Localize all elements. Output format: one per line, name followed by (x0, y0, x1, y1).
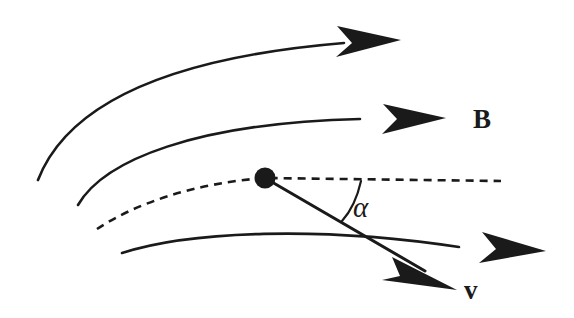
magnetic-field-label: B (473, 104, 491, 134)
physics-diagram-canvas: B v α (0, 0, 574, 318)
background (0, 0, 574, 318)
particle-dot (255, 168, 276, 189)
angle-label: α (353, 191, 369, 223)
diagram-svg: B v α (0, 0, 574, 318)
velocity-label: v (464, 275, 478, 305)
